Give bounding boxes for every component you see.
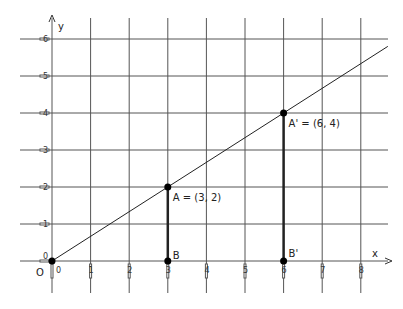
point-b-prime — [280, 258, 287, 265]
x-tick-label: 8 — [359, 266, 364, 275]
shapes: A = (3, 2)BA' = (6, 4)B' — [49, 46, 388, 264]
coordinate-plane: yxO 0123456780123456 A = (3, 2)BA' = (6,… — [0, 0, 403, 309]
tick-labels: 0123456780123456 — [43, 35, 364, 275]
y-tick-label: 4 — [43, 109, 48, 118]
point-label: B' — [289, 248, 299, 259]
y-tick-label: 6 — [43, 35, 48, 44]
point-label: B — [173, 250, 180, 261]
x-tick-label: 7 — [320, 266, 325, 275]
x-tick-label: 5 — [243, 266, 248, 275]
point-a-prime — [280, 110, 287, 117]
y-tick-label: 3 — [43, 146, 48, 155]
x-tick-label: 6 — [282, 266, 287, 275]
line-y-equals-two-thirds-x — [52, 46, 388, 261]
grid — [20, 18, 388, 293]
x-tick-label: 1 — [89, 266, 94, 275]
y-tick-label: 2 — [43, 183, 48, 192]
y-tick-label: 0 — [43, 252, 48, 261]
tick-gap — [51, 264, 53, 278]
x-axis-label: x — [372, 248, 378, 259]
x-tick-label: 3 — [166, 266, 171, 275]
y-axis-label: y — [58, 21, 64, 32]
point-label: A = (3, 2) — [173, 192, 222, 203]
point-o — [49, 258, 56, 265]
x-tick-label: 4 — [204, 266, 209, 275]
y-tick-label: 1 — [43, 220, 48, 229]
x-tick-label: 2 — [127, 266, 132, 275]
origin-label: O — [36, 267, 44, 278]
y-tick-label: 5 — [43, 72, 48, 81]
point-a — [164, 184, 171, 191]
axes: yxO — [36, 15, 392, 278]
point-label: A' = (6, 4) — [289, 118, 340, 129]
x-tick-label: 0 — [56, 266, 61, 275]
point-b — [164, 258, 171, 265]
